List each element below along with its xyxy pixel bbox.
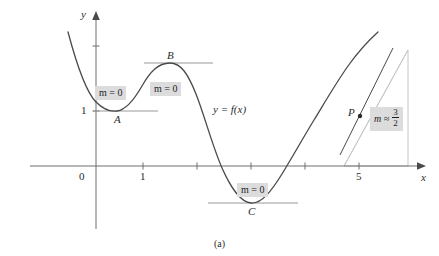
x-axis-label: x (421, 172, 426, 183)
slope-fraction-denominator: 2 (392, 118, 399, 128)
slope-annotation-c: m = 0 (237, 183, 268, 197)
tangent-line-P (340, 48, 393, 155)
slope-annotation-a: m = 0 (95, 86, 126, 100)
function-label: y = f(x) (213, 104, 246, 115)
point-label-b: B (167, 50, 174, 61)
slope-fraction-numerator: 3 (392, 108, 399, 119)
tick-label-y-1: 1 (81, 105, 87, 116)
tick-label-x-5: 5 (356, 171, 362, 182)
point-marker-p (358, 114, 362, 118)
figure-caption: (a) (0, 238, 439, 249)
slope-annotation-p: m ≈ 3 2 (370, 107, 403, 131)
figure-container: y x 0 1 5 1 A B C P y = f(x) m = 0 m = 0… (0, 0, 439, 256)
slope-annotation-p-fraction: 3 2 (392, 108, 399, 128)
slope-annotation-p-prefix: m ≈ (374, 114, 389, 124)
point-label-p: P (348, 107, 355, 118)
point-label-a: A (114, 114, 121, 125)
tick-label-origin: 0 (79, 171, 85, 182)
point-label-c: C (248, 206, 255, 217)
slope-annotation-b: m = 0 (150, 82, 181, 96)
x-axis (30, 162, 426, 170)
y-axis (92, 11, 100, 229)
y-axis-label: y (81, 9, 86, 20)
tick-label-x-1: 1 (140, 171, 146, 182)
